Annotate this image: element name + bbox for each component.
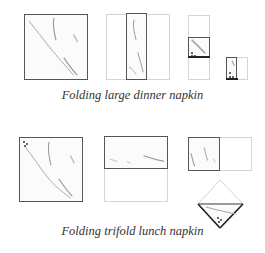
napkin-texture (25, 15, 87, 79)
lunch-napkin-step3-folded (188, 137, 220, 171)
folded-edge (226, 78, 238, 80)
napkin-texture (127, 14, 146, 79)
dinner-napkin-step1-square (24, 14, 88, 80)
lunch-napkin-step4-diamond (196, 178, 246, 230)
caption-lunch-napkin: Folding trifold lunch napkin (0, 224, 265, 239)
lunch-napkin-step2-folded (104, 136, 168, 169)
dinner-napkin-step2-folded (126, 13, 147, 80)
dinner-napkin-step4-folded (226, 57, 237, 80)
corner-mark-dot (26, 143, 28, 145)
corner-mark-dot (24, 145, 26, 147)
lunch-napkin-step1-square (19, 137, 83, 202)
dinner-napkin-step3-folded (188, 37, 210, 58)
fold-mark-dot (191, 52, 193, 54)
caption-dinner-napkin: Folding large dinner napkin (0, 88, 265, 103)
corner-mark-dot (23, 141, 25, 143)
napkin-texture (20, 138, 82, 201)
fold-mark-dot (229, 72, 231, 74)
napkin-texture (105, 137, 167, 168)
napkin-texture (189, 138, 219, 170)
folded-edge (188, 56, 210, 58)
